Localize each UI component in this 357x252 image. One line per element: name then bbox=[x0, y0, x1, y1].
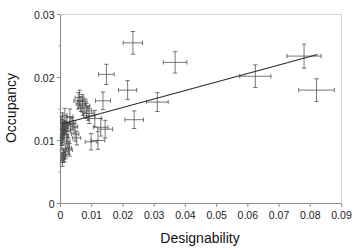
data-point bbox=[95, 92, 110, 110]
data-point bbox=[125, 111, 144, 129]
y-axis-title: Occupancy bbox=[3, 73, 19, 143]
scatter-plot-figure: 00.010.020.030.040.050.060.070.080.09 00… bbox=[0, 0, 357, 252]
x-tick-label: 0.04 bbox=[175, 209, 196, 221]
data-point bbox=[91, 132, 105, 150]
x-tick-label: 0.02 bbox=[113, 209, 134, 221]
data-point bbox=[119, 81, 137, 100]
x-tick-label: 0.08 bbox=[300, 209, 321, 221]
y-tick-label: 0.03 bbox=[34, 9, 55, 21]
data-point bbox=[287, 44, 321, 68]
x-tick-label: 0.03 bbox=[144, 209, 165, 221]
data-point bbox=[123, 32, 142, 55]
x-axis-tick-labels: 00.010.020.030.040.050.060.070.080.09 bbox=[58, 209, 352, 221]
y-tick-label: 0 bbox=[49, 198, 55, 210]
x-tick-label: 0 bbox=[58, 209, 64, 221]
x-tick-label: 0.06 bbox=[238, 209, 259, 221]
data-point bbox=[94, 118, 108, 136]
data-point bbox=[98, 120, 113, 138]
y-tick-label: 0.01 bbox=[34, 135, 55, 147]
y-axis-tick-labels: 00.010.020.03 bbox=[34, 9, 55, 210]
plot-canvas: 00.010.020.030.040.050.060.070.080.09 00… bbox=[0, 0, 357, 252]
axis-ticks bbox=[57, 15, 342, 208]
trend-line bbox=[62, 55, 317, 124]
y-tick-label: 0.02 bbox=[34, 72, 55, 84]
data-point bbox=[99, 64, 115, 84]
x-tick-label: 0.05 bbox=[206, 209, 227, 221]
x-tick-label: 0.09 bbox=[331, 209, 352, 221]
data-points-layer bbox=[60, 32, 335, 167]
data-point bbox=[146, 93, 168, 112]
x-tick-label: 0.01 bbox=[82, 209, 103, 221]
x-tick-label: 0.07 bbox=[269, 209, 290, 221]
data-point bbox=[163, 52, 187, 73]
x-axis-title: Designability bbox=[160, 230, 239, 246]
data-point bbox=[299, 79, 335, 102]
